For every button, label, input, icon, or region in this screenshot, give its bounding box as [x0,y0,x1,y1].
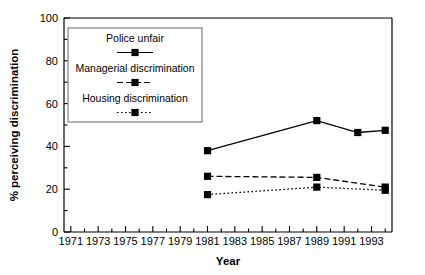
managerial-marker-1981 [204,173,211,180]
series-housing-discrimination [204,184,389,199]
y-tick-label-60: 60 [46,98,58,110]
legend-label-police-unfair: Police unfair [106,32,164,44]
series-police-unfair [204,117,389,154]
x-axis-title: Year [216,255,241,267]
x-tick-label-1989: 1989 [305,235,329,247]
x-tick-label-1993: 1993 [359,235,383,247]
legend-label-housing-discrimination: Housing discrimination [82,92,188,104]
police-unfair-marker-1989 [313,117,320,124]
y-axis-tick-labels: 100 80 60 40 20 0 [40,12,58,238]
managerial-marker-1989 [313,174,320,181]
legend-sample-marker-police-unfair [131,49,138,56]
legend-sample-marker-managerial-discrimination [131,79,138,86]
legend-sample-marker-housing-discrimination [131,109,138,116]
x-tick-label-1973: 1973 [86,235,110,247]
chart-container: 100 80 60 40 20 0 [0,0,425,275]
x-tick-label-1987: 1987 [277,235,301,247]
y-tick-label-100: 100 [40,12,58,24]
x-tick-label-1971: 1971 [59,235,83,247]
x-tick-label-1979: 1979 [168,235,192,247]
line-chart: 100 80 60 40 20 0 [0,0,425,275]
legend-label-managerial-discrimination: Managerial discrimination [75,62,194,74]
housing-marker-1981 [204,191,211,198]
managerial-discrimination-line [208,176,386,187]
x-tick-label-1983: 1983 [223,235,247,247]
x-tick-label-1977: 1977 [141,235,165,247]
x-tick-label-1985: 1985 [250,235,274,247]
x-axis-tick-labels: 1971 1973 1975 1977 1979 1981 1983 1985 … [59,235,384,247]
x-tick-label-1981: 1981 [195,235,219,247]
police-unfair-marker-1992 [354,129,361,136]
y-tick-label-20: 20 [46,183,58,195]
y-tick-label-40: 40 [46,140,58,152]
y-axis-title: % perceiving discrimination [8,49,20,202]
housing-marker-1994 [382,187,389,194]
x-tick-label-1975: 1975 [113,235,137,247]
police-unfair-marker-1981 [204,147,211,154]
housing-marker-1989 [313,184,320,191]
housing-discrimination-line [208,187,386,195]
police-unfair-marker-1994 [382,127,389,134]
x-tick-label-1991: 1991 [332,235,356,247]
y-tick-label-0: 0 [52,226,58,238]
y-tick-label-80: 80 [46,55,58,67]
chart-legend: Police unfair Managerial discrimination … [68,28,202,122]
x-axis-ticks [71,226,385,232]
